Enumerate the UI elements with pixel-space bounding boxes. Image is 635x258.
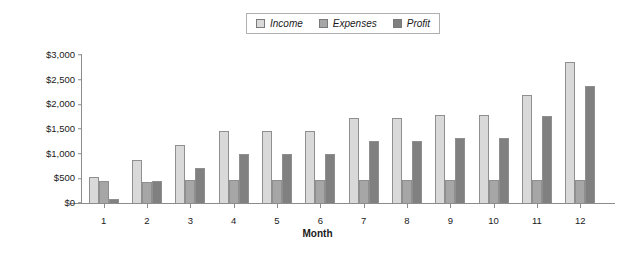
bar-income[interactable] [435,115,445,203]
x-axis-line [70,203,615,204]
x-axis-tick-label: 1 [101,216,106,226]
bar-expenses[interactable] [185,180,195,203]
bar-group: 6 [299,55,342,203]
bar-profit[interactable] [152,181,162,203]
bar-expenses[interactable] [532,180,542,203]
bar-expenses[interactable] [445,180,455,203]
y-axis-tick-label: $2,500 [46,75,75,85]
x-axis-tick-mark [277,204,278,208]
bar-income[interactable] [565,62,575,203]
bar-group: 12 [559,55,602,203]
y-axis-tick-label: $1,500 [46,124,75,134]
x-axis-tick-mark [580,204,581,208]
bar-income[interactable] [219,131,229,203]
x-axis-tick-mark [450,204,451,208]
y-axis-tick: $500 [54,174,82,184]
bar-income[interactable] [89,177,99,203]
bar-group: 4 [212,55,255,203]
legend-label: Profit [407,19,430,29]
plot-area: $0$500$1,000$1,500$2,000$2,500$3,000 123… [82,55,602,203]
bar-profit[interactable] [239,154,249,203]
bar-income[interactable] [349,118,359,203]
y-axis-tick: $1,500 [46,124,82,134]
x-axis-tick-mark [320,204,321,208]
x-axis-title: Month [0,228,635,239]
bar-profit[interactable] [412,141,422,203]
legend-item[interactable]: Income [256,19,303,29]
bar-expenses[interactable] [142,182,152,203]
x-axis-tick-label: 6 [318,216,323,226]
bar-group: 3 [169,55,212,203]
bar-expenses[interactable] [359,180,369,203]
y-axis-tick: $1,000 [46,149,82,159]
bar-expenses[interactable] [575,180,585,203]
legend-item[interactable]: Expenses [319,19,377,29]
legend-item[interactable]: Profit [393,19,430,29]
x-axis-tick-label: 9 [448,216,453,226]
y-axis-tick: $2,000 [46,100,82,110]
y-axis-tick: $2,500 [46,75,82,85]
bar-profit[interactable] [109,199,119,203]
legend-label: Expenses [333,19,377,29]
bar-income[interactable] [522,95,532,203]
bar-group: 9 [429,55,472,203]
bar-profit[interactable] [325,154,335,203]
bar-income[interactable] [392,118,402,203]
y-axis-tick-label: $1,000 [46,149,75,159]
legend-swatch-icon [393,19,402,28]
legend-swatch-icon [319,19,328,28]
bar-profit[interactable] [369,141,379,203]
legend-swatch-icon [256,19,265,28]
x-axis-tick-mark [407,204,408,208]
bar-group: 1 [82,55,125,203]
bar-profit[interactable] [282,154,292,203]
bar-expenses[interactable] [489,180,499,203]
x-axis-tick-mark [190,204,191,208]
legend-label: Income [270,19,303,29]
bar-income[interactable] [175,145,185,203]
y-axis-tick: $0 [64,198,82,208]
bar-group: 5 [255,55,298,203]
bar-groups: 123456789101112 [82,55,602,203]
y-axis-tick-label: $2,000 [46,100,75,110]
bar-group: 11 [515,55,558,203]
x-axis-tick-label: 7 [361,216,366,226]
bar-income[interactable] [132,160,142,203]
bar-income[interactable] [262,131,272,203]
x-axis-tick-label: 12 [575,216,586,226]
bar-expenses[interactable] [402,180,412,203]
x-axis-tick-mark [147,204,148,208]
chart-legend: IncomeExpensesProfit [246,13,440,34]
y-axis-tick: $3,000 [46,50,82,60]
bar-group: 8 [385,55,428,203]
y-axis-tick-label: $3,000 [46,50,75,60]
x-axis-tick-mark [364,204,365,208]
x-axis-tick-mark [494,204,495,208]
bar-expenses[interactable] [315,180,325,203]
x-axis-tick-label: 4 [231,216,236,226]
y-axis-tick-label: $0 [64,198,75,208]
x-axis-tick-label: 2 [144,216,149,226]
bar-profit[interactable] [455,138,465,203]
x-axis-tick-label: 10 [488,216,499,226]
x-axis-tick-label: 5 [274,216,279,226]
bar-profit[interactable] [499,138,509,203]
bar-expenses[interactable] [272,180,282,203]
x-axis-tick-label: 8 [404,216,409,226]
bar-expenses[interactable] [229,180,239,203]
y-axis-tick-label: $500 [54,174,75,184]
bar-income[interactable] [479,115,489,203]
x-axis-tick-mark [104,204,105,208]
bar-group: 2 [125,55,168,203]
bar-chart: IncomeExpensesProfit $0$500$1,000$1,500$… [0,0,635,258]
x-axis-tick-label: 11 [532,216,542,226]
bar-income[interactable] [305,131,315,203]
x-axis-tick-mark [234,204,235,208]
bar-group: 7 [342,55,385,203]
x-axis-tick-mark [537,204,538,208]
bar-profit[interactable] [195,168,205,203]
bar-expenses[interactable] [99,181,109,203]
bar-profit[interactable] [585,86,595,203]
x-axis-tick-label: 3 [188,216,193,226]
bar-profit[interactable] [542,116,552,203]
